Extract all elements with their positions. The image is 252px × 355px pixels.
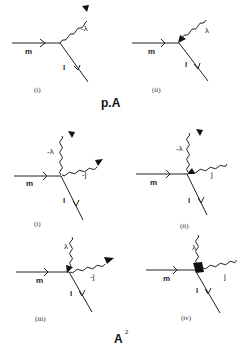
photon-label-up: -λ bbox=[176, 144, 183, 153]
photon-label-right: -j bbox=[90, 272, 95, 281]
photon-arrow-icon bbox=[193, 262, 204, 273]
diagram-caption: (ii) bbox=[180, 222, 189, 230]
fermion-label-l: l bbox=[185, 60, 187, 69]
diagram-A2-i: m l -λ -j (i) bbox=[14, 131, 103, 228]
photon-line-up bbox=[70, 237, 73, 266]
photon-line bbox=[182, 20, 206, 38]
photon-line-up bbox=[187, 133, 190, 172]
photon-label-right: -j bbox=[82, 170, 87, 179]
photon-label: -λ bbox=[81, 24, 88, 33]
photon-arrow-icon bbox=[196, 129, 203, 136]
diagram-A2-iii: m l λ -j (iii) bbox=[16, 237, 114, 323]
photon-arrow-icon bbox=[66, 265, 73, 273]
diagram-caption: (ii) bbox=[152, 86, 161, 94]
photon-label-up: λ bbox=[192, 243, 196, 252]
diagram-caption: (iv) bbox=[181, 314, 192, 322]
photon-line-right bbox=[203, 260, 236, 269]
photon-label-up: λ bbox=[64, 242, 68, 251]
fermion-label-m: m bbox=[163, 274, 170, 283]
photon-line-right bbox=[62, 167, 97, 176]
fermion-label-l: l bbox=[188, 196, 190, 205]
photon-line-up bbox=[60, 136, 63, 175]
photon-label-right: j bbox=[210, 170, 213, 179]
fermion-label-m: m bbox=[26, 179, 33, 188]
photon-label-up: -λ bbox=[47, 147, 54, 156]
fermion-label-l: l bbox=[70, 289, 72, 298]
photon-label: λ bbox=[205, 26, 209, 35]
fermion-label-m: m bbox=[148, 47, 155, 56]
diagram-pA-ii: m l λ (ii) bbox=[132, 20, 209, 94]
diagram-A2-ii: m l -λ j (ii) bbox=[136, 129, 227, 230]
diagram-caption: (iii) bbox=[35, 315, 46, 323]
photon-arrow-icon bbox=[104, 257, 114, 264]
fermion-label-l: l bbox=[63, 196, 65, 205]
fermion-line-out bbox=[187, 174, 207, 215]
photon-arrow-icon bbox=[68, 131, 75, 138]
photon-arrow-icon bbox=[178, 35, 186, 43]
fermion-label-m: m bbox=[25, 47, 32, 56]
fermion-line-out bbox=[69, 272, 92, 312]
photon-arrow-icon bbox=[82, 5, 89, 12]
fermion-label-l: l bbox=[63, 63, 65, 72]
photon-label-right: j bbox=[223, 272, 226, 281]
group-title-A2-superscript: 2 bbox=[125, 329, 129, 335]
diagram-pA-i: m l -λ (i) bbox=[12, 5, 89, 94]
fermion-label-m: m bbox=[36, 276, 43, 285]
photon-line-right bbox=[193, 164, 227, 173]
group-title-A2: A bbox=[114, 332, 123, 346]
photon-arrow-icon bbox=[95, 159, 103, 166]
diagram-caption: (i) bbox=[34, 220, 41, 228]
group-title-pA: p.A bbox=[101, 96, 121, 110]
diagram-caption: (i) bbox=[34, 86, 41, 94]
diagram-A2-iv: m l λ j (iv) bbox=[146, 235, 236, 322]
photon-arrow-icon bbox=[187, 168, 195, 174]
fermion-label-m: m bbox=[150, 178, 157, 187]
fermion-label-l: l bbox=[196, 286, 198, 295]
fermion-line-out bbox=[195, 270, 220, 313]
feynman-diagrams-figure: m l -λ (i) m l λ (ii) p.A m l -λ -j (i) bbox=[0, 0, 252, 355]
photon-line-right bbox=[70, 264, 105, 273]
fermion-line-out bbox=[179, 43, 208, 81]
